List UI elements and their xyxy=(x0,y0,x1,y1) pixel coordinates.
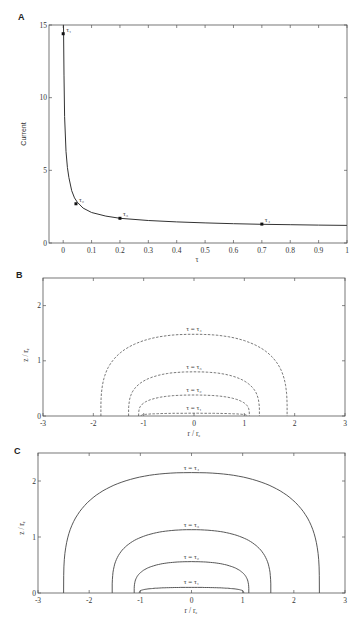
x-tick-label: -1 xyxy=(141,419,147,428)
y-tick-label: 1 xyxy=(32,533,36,542)
panel-c-xlabel: r / rₑ xyxy=(185,606,198,615)
y-tick-label: 5 xyxy=(43,166,47,175)
panel-a-ticks: 00.10.20.30.40.50.60.70.80.91051015 xyxy=(40,21,350,256)
x-tick-label: 3 xyxy=(343,419,347,428)
x-tick-label: 0.4 xyxy=(172,246,182,255)
contour-label: τ = τ₂ xyxy=(184,553,200,561)
y-tick-label: 0 xyxy=(32,589,36,598)
panel-b-dashed-contours: B -3-2-10123012 τ = τ₁τ = τ₂τ = τ₃τ = τ₄… xyxy=(16,270,347,438)
tau-marker xyxy=(62,32,65,35)
panel-letter-a: A xyxy=(18,12,25,22)
x-tick-label: 0 xyxy=(61,246,65,255)
panel-c-solid-contours: C -3-2-10123012 τ = τ₁τ = τ₂τ = τ₃τ = τ₄… xyxy=(14,446,347,615)
panel-b-contours: τ = τ₁τ = τ₂τ = τ₃τ = τ₄ xyxy=(101,325,287,416)
contour-label: τ = τ₄ xyxy=(186,325,202,333)
x-tick-label: 0.5 xyxy=(200,246,210,255)
x-tick-label: -1 xyxy=(137,596,143,605)
x-tick-label: 0.2 xyxy=(115,246,125,255)
x-tick-label: 0.7 xyxy=(257,246,267,255)
x-tick-label: 0.9 xyxy=(314,246,324,255)
x-tick-label: 0.3 xyxy=(144,246,154,255)
panel-a-frame xyxy=(49,25,347,243)
y-tick-label: 2 xyxy=(32,477,36,486)
panel-a-xlabel: τ xyxy=(195,255,198,264)
x-tick-label: 1 xyxy=(242,419,246,428)
tau-marker xyxy=(260,223,263,226)
x-tick-label: 0.6 xyxy=(229,246,239,255)
x-tick-label: 2 xyxy=(293,419,297,428)
x-tick-label: 0 xyxy=(190,596,194,605)
y-tick-label: 15 xyxy=(40,21,48,30)
x-tick-label: 2 xyxy=(292,596,296,605)
tau-marker-label: τ₃ xyxy=(123,210,129,218)
contour-line xyxy=(64,473,320,593)
x-tick-label: 1 xyxy=(241,596,245,605)
tau-marker-label: τ₂ xyxy=(79,196,85,204)
y-tick-label: 0 xyxy=(37,412,41,421)
panel-letter-c: C xyxy=(14,446,21,456)
contour-label: τ = τ₃ xyxy=(186,363,202,371)
current-curve xyxy=(63,25,347,225)
contour-label: τ = τ₂ xyxy=(186,386,202,394)
tau-marker-label: τ₁ xyxy=(66,26,71,34)
panel-b-xlabel: r / rₑ xyxy=(188,429,201,438)
y-tick-label: 10 xyxy=(40,93,48,102)
contour-label: τ = τ₁ xyxy=(186,404,202,412)
y-tick-label: 0 xyxy=(43,239,47,248)
tau-marker xyxy=(118,217,121,220)
x-tick-label: -2 xyxy=(90,419,96,428)
x-tick-label: 0.8 xyxy=(286,246,296,255)
x-tick-label: 1 xyxy=(345,246,349,255)
panel-a-curve: τ₁τ₂τ₃τ₄ xyxy=(62,25,347,226)
y-tick-label: 1 xyxy=(37,356,41,365)
panel-c-contours: τ = τ₁τ = τ₂τ = τ₃τ = τ₄ xyxy=(64,464,320,593)
contour-label: τ = τ₃ xyxy=(184,521,200,529)
y-tick-label: 2 xyxy=(37,301,41,310)
panel-a-ylabel: Current xyxy=(20,122,27,145)
tau-marker-label: τ₄ xyxy=(265,216,271,224)
tau-marker xyxy=(74,202,77,205)
contour-label: τ = τ₁ xyxy=(184,578,200,586)
x-tick-label: -2 xyxy=(86,596,92,605)
x-tick-label: 0.1 xyxy=(87,246,97,255)
panel-letter-b: B xyxy=(16,270,23,280)
panel-c-ylabel: z / rₑ xyxy=(17,521,26,535)
panel-b-ylabel: z / rₑ xyxy=(21,348,30,362)
panel-a-current-plot: A 00.10.20.30.40.50.60.70.80.91051015 τ₁… xyxy=(18,12,349,264)
contour-label: τ = τ₄ xyxy=(184,464,200,472)
x-tick-label: 0 xyxy=(192,419,196,428)
figure: A 00.10.20.30.40.50.60.70.80.91051015 τ₁… xyxy=(0,0,360,625)
x-tick-label: 3 xyxy=(343,596,347,605)
